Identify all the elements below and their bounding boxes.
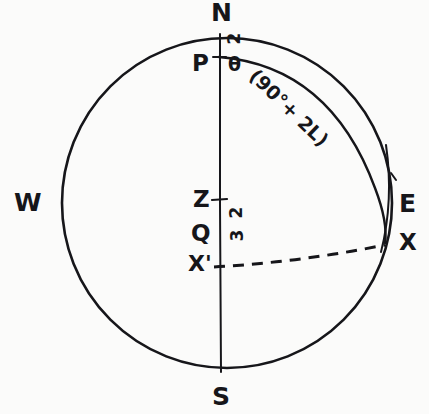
point-label-equator-q: Q bbox=[191, 222, 211, 245]
angle-label-theta: θ bbox=[228, 55, 241, 74]
tick-at-zenith bbox=[212, 199, 227, 200]
prime-tick-east bbox=[391, 173, 396, 180]
arc-number-label-3: 3 bbox=[229, 230, 246, 242]
diagram-canvas bbox=[0, 0, 429, 414]
point-label-x-prime: X' bbox=[188, 253, 212, 275]
celestial-sphere-figure: N S W E P Z Q X' X θ 2 2 3 (90°+ 2L) bbox=[0, 0, 429, 414]
cardinal-label-east: E bbox=[399, 191, 417, 216]
point-label-x-on-horizon: X bbox=[399, 231, 417, 254]
point-label-pole: P bbox=[192, 52, 209, 75]
point-label-zenith: Z bbox=[193, 188, 210, 211]
cardinal-label-north: N bbox=[211, 0, 232, 25]
horizon-arc-dashed bbox=[214, 245, 385, 267]
celestial-sphere-circle bbox=[62, 38, 392, 368]
arc-number-label-2-lower: 2 bbox=[228, 207, 245, 219]
arc-number-label-2-upper: 2 bbox=[226, 33, 243, 45]
meridian-line bbox=[220, 34, 221, 372]
cardinal-label-west: W bbox=[14, 190, 42, 215]
cardinal-label-south: S bbox=[212, 384, 231, 409]
